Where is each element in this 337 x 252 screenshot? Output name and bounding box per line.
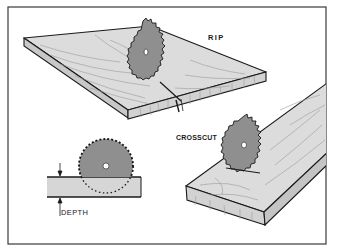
saw-cuts-figure: RIP CROSSCUT DEPTH bbox=[0, 0, 337, 252]
depth-blade-arbor-hole bbox=[103, 163, 109, 169]
depth-label: DEPTH bbox=[61, 209, 88, 217]
rip-label: RIP bbox=[208, 34, 225, 42]
crosscut-label: CROSSCUT bbox=[176, 134, 217, 141]
figure-canvas bbox=[0, 0, 337, 252]
depth-board bbox=[47, 177, 141, 197]
crosscut-blade-arbor-hole bbox=[242, 142, 247, 148]
rip-blade-arbor-hole bbox=[144, 49, 148, 55]
